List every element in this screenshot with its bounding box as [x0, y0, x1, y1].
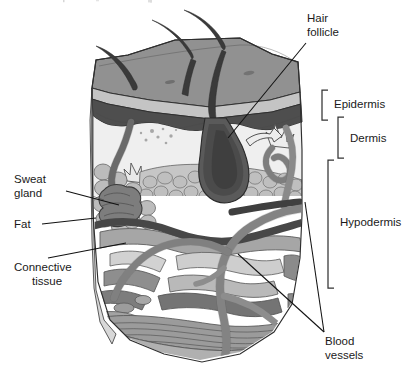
- diagram-canvas: Hair follicle Sweat gland Fat Connective…: [0, 0, 420, 376]
- skin-block: [90, 10, 306, 366]
- epidermis-label: Epidermis: [334, 98, 385, 110]
- connective-tissue-label-line2: tissue: [32, 275, 62, 287]
- blood-vessels-label-line1: Blood: [325, 335, 354, 347]
- dermis-label: Dermis: [350, 132, 387, 144]
- hypodermis-label: Hypodermis: [340, 216, 402, 228]
- hair-follicle-label-line1: Hair: [307, 12, 328, 24]
- skin-cross-section-figure: Hair follicle Sweat gland Fat Connective…: [0, 0, 420, 376]
- hair-follicle-label-line2: follicle: [307, 26, 339, 38]
- sweat-gland-label-line1: Sweat: [14, 173, 47, 185]
- blood-vessels-label-line2: vessels: [325, 349, 364, 361]
- fat-label: Fat: [14, 218, 31, 230]
- connective-tissue-label-line1: Connective: [14, 261, 72, 273]
- sweat-gland-label-line2: gland: [14, 187, 42, 199]
